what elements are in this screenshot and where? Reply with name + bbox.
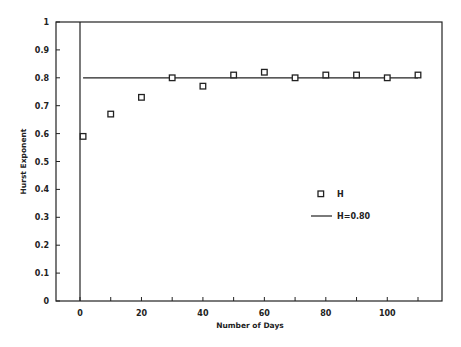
data-points [80, 69, 421, 139]
data-point-square [292, 75, 298, 81]
data-point-square [169, 75, 175, 81]
reference-lines [80, 22, 418, 301]
x-tick-label: 100 [379, 309, 396, 318]
data-point-square [108, 111, 114, 117]
data-point-square [415, 72, 421, 78]
data-point-square [354, 72, 360, 78]
legend-label-h: H [337, 190, 344, 199]
plot-border [56, 22, 442, 301]
hurst-exponent-chart: 00.10.20.30.40.50.60.70.80.91 0204060801… [0, 0, 461, 347]
data-point-square [200, 83, 206, 89]
y-tick-label: 1 [43, 18, 49, 27]
y-tick-label: 0.8 [35, 74, 50, 83]
legend-marker-square [318, 191, 324, 197]
data-point-square [80, 134, 86, 140]
data-point-square [323, 72, 329, 78]
data-point-square [384, 75, 390, 81]
x-tick-label: 20 [136, 309, 148, 318]
y-tick-label: 0.5 [35, 158, 50, 167]
y-tick-label: 0.7 [35, 102, 49, 111]
x-tick-label: 0 [77, 309, 83, 318]
x-tick-label: 80 [320, 309, 332, 318]
x-axis: 020406080100 [77, 297, 418, 318]
y-tick-label: 0 [43, 297, 49, 306]
data-point-square [139, 95, 145, 101]
y-tick-label: 0.6 [35, 130, 50, 139]
y-tick-label: 0.1 [35, 269, 50, 278]
data-point-square [231, 72, 237, 78]
y-tick-label: 0.3 [35, 213, 49, 222]
x-axis-title: Number of Days [216, 321, 284, 330]
y-tick-label: 0.2 [35, 241, 49, 250]
legend-label-h-080: H=0.80 [337, 212, 371, 221]
y-tick-label: 0.9 [35, 46, 50, 55]
x-tick-label: 60 [259, 309, 271, 318]
plot-frame [56, 22, 442, 301]
legend: H H=0.80 [311, 190, 371, 221]
y-tick-label: 0.4 [35, 185, 50, 194]
data-point-square [262, 69, 268, 75]
x-tick-label: 40 [197, 309, 209, 318]
y-axis-title: Hurst Exponent [19, 128, 28, 194]
